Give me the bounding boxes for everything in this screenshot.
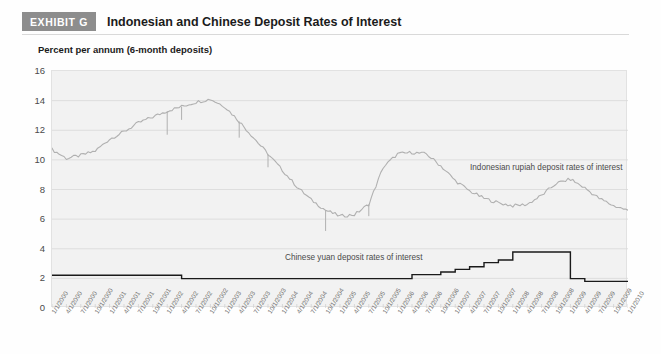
exhibit-chart-figure: EXHIBIT G Indonesian and Chinese Deposit… (0, 0, 661, 354)
china-series-label: Chinese yuan deposit rates of interest (285, 253, 422, 262)
indonesia-series-label: Indonesian rupiah deposit rates of inter… (470, 163, 622, 172)
x-axis-tick-labels: 1/1/20004/1/20007/1/200010/1/20001/1/200… (0, 0, 661, 354)
